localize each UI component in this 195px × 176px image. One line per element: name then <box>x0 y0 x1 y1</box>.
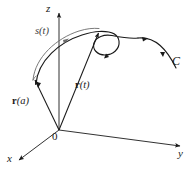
vector-label-r-a: r(a) <box>12 96 29 107</box>
figure-canvas <box>0 0 195 176</box>
vector-label-r-t-arg: (t) <box>80 79 90 90</box>
curve-loop <box>94 31 138 55</box>
x-axis-label: x <box>7 153 12 164</box>
curve-right-branch <box>138 38 176 68</box>
y-axis-label: y <box>178 148 183 159</box>
vector-r-a <box>35 80 59 130</box>
curve-arrow-4 <box>160 52 165 57</box>
arc-length-label: s(t) <box>35 26 49 37</box>
y-axis <box>59 130 180 146</box>
origin-label: 0 <box>52 131 58 142</box>
vector-label-r-a-arg: (a) <box>17 95 29 106</box>
z-axis-label: z <box>46 3 50 14</box>
curve-direction-arrows <box>36 37 165 88</box>
vector-curve-figure: z y x 0 C s(t) r(a) r(t) <box>0 0 195 176</box>
curve-label-c: C <box>172 55 180 67</box>
vector-label-r-t: r(t) <box>75 80 90 91</box>
